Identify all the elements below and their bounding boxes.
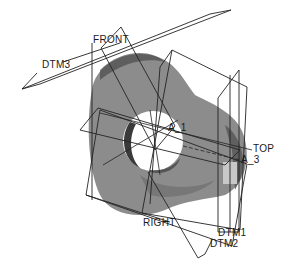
label-dtm2: DTM2: [210, 238, 239, 249]
cad-scene: FRONT DTM3 A_1 TOP A_3 RIGHT DTM1 DTM2: [0, 0, 286, 267]
label-front: FRONT: [93, 34, 129, 45]
label-dtm1: DTM1: [218, 227, 247, 238]
label-right: RIGHT: [143, 217, 176, 228]
model-viewport[interactable]: FRONT DTM3 A_1 TOP A_3 RIGHT DTM1 DTM2: [0, 0, 286, 267]
label-top: TOP: [253, 143, 274, 154]
label-a3: A_3: [241, 154, 260, 165]
label-dtm3: DTM3: [42, 59, 71, 70]
label-a1: A_1: [168, 122, 187, 133]
